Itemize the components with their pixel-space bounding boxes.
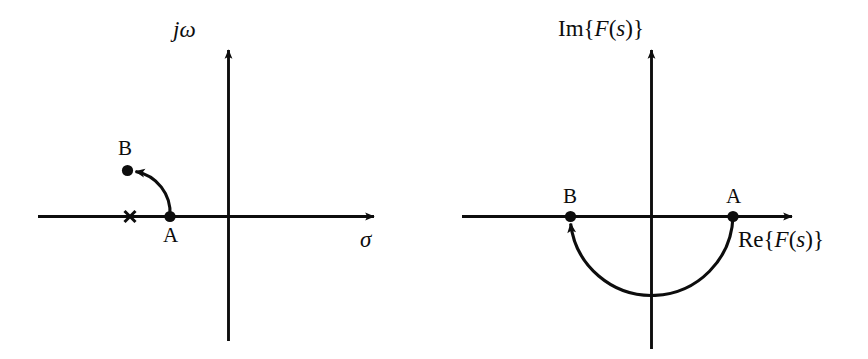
f-plane-point-a-dot <box>727 211 738 222</box>
s-plane-point-a-label: A <box>163 225 178 246</box>
re-arg-close: ) <box>805 227 813 252</box>
panel-f-plane <box>462 50 792 349</box>
im-prefix: Im <box>558 16 584 41</box>
im-open-brace: { <box>584 16 595 41</box>
f-plane-real-axis-label: Re{F(s)} <box>738 228 824 251</box>
figure-canvas <box>0 0 868 359</box>
re-prefix: Re <box>738 227 764 252</box>
s-plane-contour-arc <box>136 172 171 217</box>
im-close-brace: } <box>633 16 644 41</box>
re-open-brace: { <box>764 227 775 252</box>
f-plane-point-b-dot <box>565 211 576 222</box>
s-plane-real-axis-label: σ <box>360 228 371 251</box>
figure-root: jω σ B A Im{F(s)} Re{F(s)} B A <box>0 0 868 359</box>
re-arg-symbol: s <box>796 227 805 252</box>
re-func-symbol: F <box>775 227 789 252</box>
s-plane-point-b-dot <box>122 165 133 176</box>
f-plane-point-b-label: B <box>563 186 577 207</box>
im-arg-symbol: s <box>616 16 625 41</box>
f-plane-point-a-label: A <box>726 186 741 207</box>
im-func-symbol: F <box>595 16 609 41</box>
f-plane-imaginary-axis-label: Im{F(s)} <box>558 17 644 40</box>
im-arg-close: ) <box>625 16 633 41</box>
panel-s-plane <box>38 50 374 341</box>
re-close-brace: } <box>813 227 824 252</box>
s-plane-imaginary-axis-label: jω <box>173 18 196 41</box>
s-plane-point-a-dot <box>164 211 175 222</box>
s-plane-point-b-label: B <box>118 138 132 159</box>
